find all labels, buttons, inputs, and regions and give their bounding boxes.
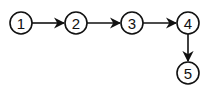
node-1-label: 1 xyxy=(17,15,25,32)
flow-diagram: 1 2 3 4 5 xyxy=(0,0,209,90)
node-5-label: 5 xyxy=(184,65,192,82)
node-1: 1 xyxy=(10,12,32,34)
node-3: 3 xyxy=(121,12,143,34)
node-5: 5 xyxy=(177,62,199,84)
node-2-label: 2 xyxy=(72,15,80,32)
node-3-label: 3 xyxy=(128,15,136,32)
edges xyxy=(32,23,188,61)
node-4: 4 xyxy=(177,12,199,34)
node-4-label: 4 xyxy=(184,15,192,32)
node-2: 2 xyxy=(65,12,87,34)
